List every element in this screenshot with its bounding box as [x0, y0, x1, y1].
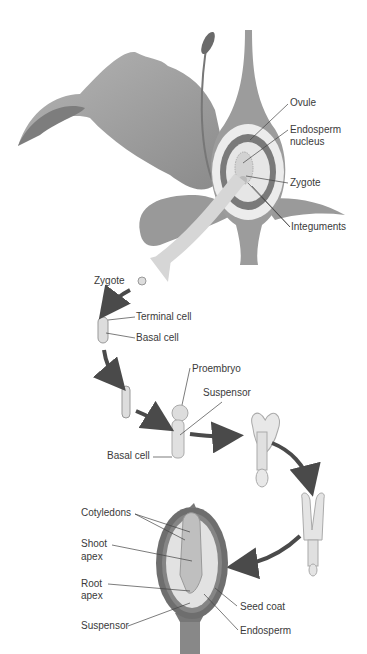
label-endosperm-nucleus-2: nucleus	[290, 136, 324, 148]
label-shoot-apex-1: Shoot	[81, 538, 107, 550]
label-basal-cell-1: Basal cell	[136, 332, 179, 344]
label-seed-coat: Seed coat	[240, 601, 285, 613]
label-terminal-cell: Terminal cell	[136, 311, 192, 323]
two-cell-stage	[98, 317, 108, 343]
label-suspensor-seed: Suspensor	[81, 620, 129, 632]
label-zygote-flower: Zygote	[290, 177, 321, 189]
embryo-development-diagram: Ovule Endosperm nucleus Zygote Integumen…	[0, 0, 367, 654]
flower-petals	[18, 52, 345, 246]
label-proembryo: Proembryo	[192, 363, 241, 375]
label-zygote: Zygote	[94, 275, 125, 287]
label-basal-cell-2: Basal cell	[107, 450, 150, 462]
seed	[156, 503, 228, 654]
label-root-apex-1: Root	[81, 578, 102, 590]
label-endosperm: Endosperm	[240, 625, 291, 637]
label-shoot-apex-2: apex	[81, 551, 103, 563]
anther	[198, 30, 217, 56]
label-endosperm-nucleus-1: Endosperm	[290, 124, 341, 136]
label-ovule: Ovule	[290, 97, 316, 109]
zygote-cell	[138, 277, 146, 285]
ovary	[211, 30, 285, 265]
label-cotyledons: Cotyledons	[81, 507, 131, 519]
label-root-apex-2: apex	[81, 590, 103, 602]
label-suspensor: Suspensor	[203, 387, 251, 399]
label-integuments: Integuments	[291, 221, 346, 233]
